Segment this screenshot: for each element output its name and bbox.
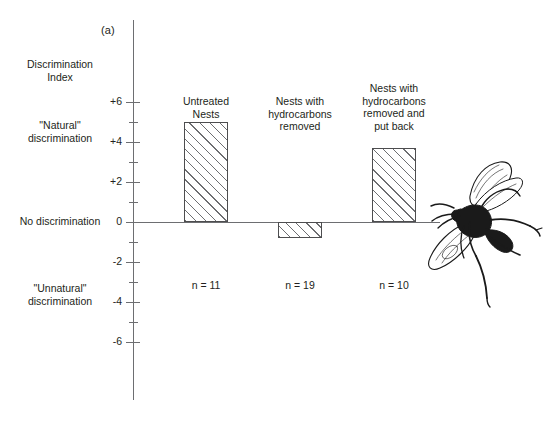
- sample-size-label: n = 10: [354, 279, 434, 291]
- y-tick-5: [129, 122, 138, 123]
- bar: [278, 222, 322, 238]
- y-tick-4: [126, 142, 140, 143]
- y-tick-label-4: +4: [96, 135, 122, 147]
- wasp-illustration: [424, 160, 544, 308]
- figure-panel-a: (a) Discrimination Index "Natural" discr…: [0, 0, 544, 434]
- bar-category-label: Nests with hydrocarbons removed and put …: [344, 82, 444, 132]
- y-tick-2: [126, 182, 140, 183]
- y-tick-1: [129, 202, 138, 203]
- bar: [184, 122, 228, 222]
- y-tick--4: [126, 302, 140, 303]
- y-tick-label-0: 0: [96, 215, 122, 227]
- y-tick-label-6: +6: [96, 95, 122, 107]
- y-tick--6: [126, 342, 140, 343]
- sample-size-label: n = 11: [166, 279, 246, 291]
- y-tick-label--4: -4: [96, 295, 122, 307]
- sample-size-label: n = 19: [260, 279, 340, 291]
- y-tick-0: [126, 222, 140, 223]
- y-tick-label--2: -2: [96, 255, 122, 267]
- y-tick-label-2: +2: [96, 175, 122, 187]
- y-tick-3: [129, 162, 138, 163]
- y-tick--3: [129, 282, 138, 283]
- y-tick--2: [126, 262, 140, 263]
- bar-category-label: Nests with hydrocarbons removed: [250, 95, 350, 133]
- y-tick--1: [129, 242, 138, 243]
- bar: [372, 148, 416, 222]
- y-axis-line: [133, 20, 134, 400]
- y-tick-6: [126, 102, 140, 103]
- y-tick--5: [129, 322, 138, 323]
- y-tick-label--6: -6: [96, 335, 122, 347]
- bar-category-label: Untreated Nests: [156, 95, 256, 120]
